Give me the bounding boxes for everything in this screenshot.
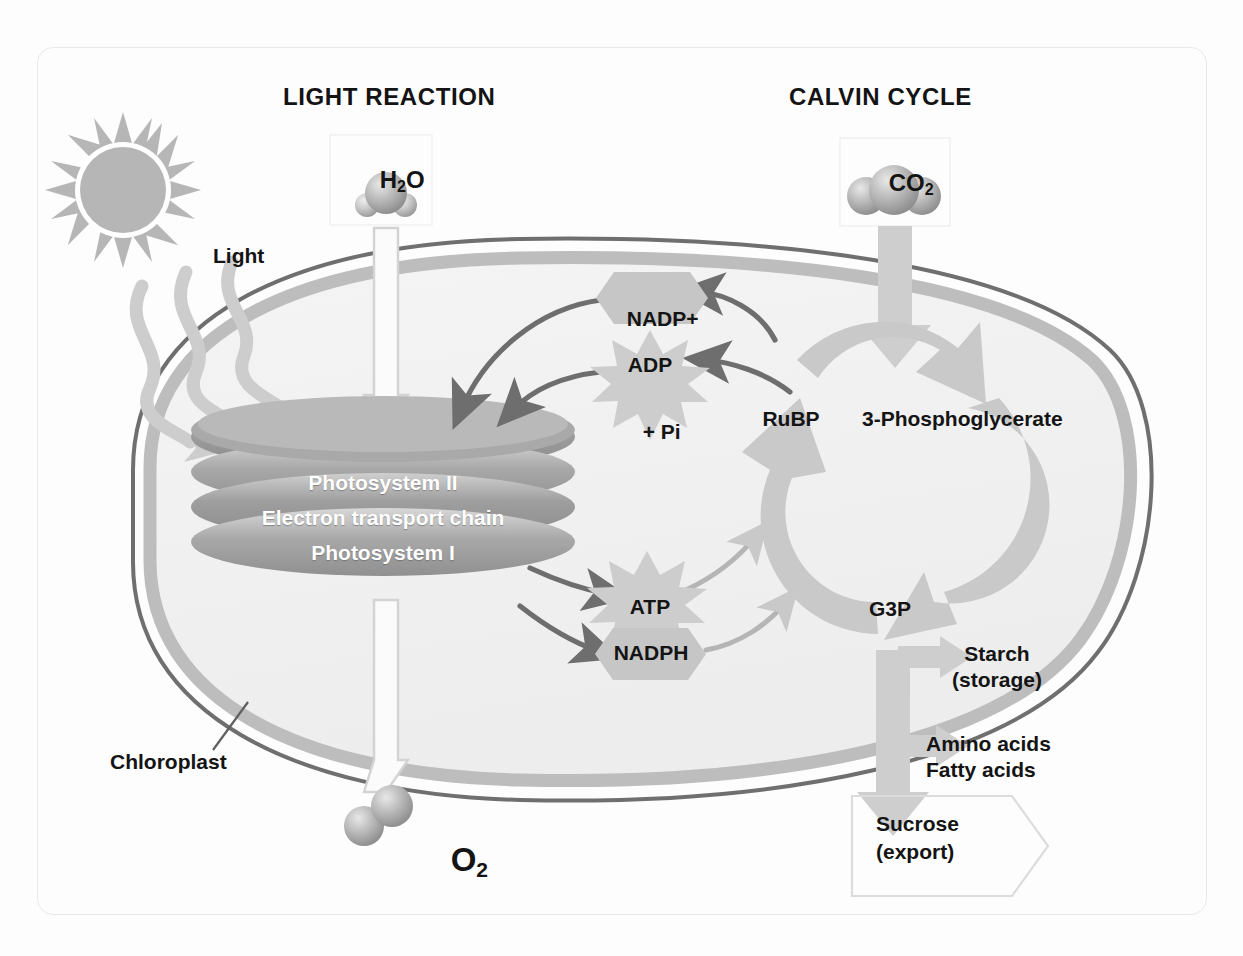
oxygen-molecule-label: O2 bbox=[414, 805, 488, 918]
sun-icon bbox=[45, 112, 201, 268]
sucrose-label-line2: (export) bbox=[876, 840, 954, 864]
water-h: H bbox=[380, 166, 397, 193]
starch-label-line1: Starch bbox=[919, 642, 1075, 666]
thylakoid-label-photosystem-2: Photosystem II bbox=[191, 471, 575, 495]
water-molecule-label: H2O bbox=[353, 140, 425, 223]
nadp-text: NADP bbox=[627, 307, 687, 330]
diagram-artwork bbox=[0, 0, 1243, 956]
co2-2: 2 bbox=[925, 181, 934, 198]
chloroplast-label: Chloroplast bbox=[110, 750, 227, 774]
nadp-plus-label: NADP+ bbox=[592, 283, 710, 354]
g3p-label: G3P bbox=[869, 597, 911, 621]
atp-label: ATP bbox=[598, 595, 702, 619]
water-2: 2 bbox=[397, 178, 406, 195]
fatty-acids-label: Fatty acids bbox=[926, 758, 1036, 782]
thylakoid-label-electron-transport-chain: Electron transport chain bbox=[191, 506, 575, 530]
oxygen-molecule bbox=[344, 785, 413, 846]
co2-co: CO bbox=[889, 169, 925, 196]
section-heading-light-reaction: LIGHT REACTION bbox=[283, 84, 495, 111]
nadp-plus-sign: + bbox=[686, 307, 698, 330]
inorganic-phosphate-label: + Pi bbox=[596, 396, 704, 467]
adp-label: ADP bbox=[598, 353, 702, 377]
pi-sub: i bbox=[675, 420, 681, 443]
diagram-canvas: LIGHT REACTION CALVIN CYCLE H2O CO2 Ligh… bbox=[0, 0, 1243, 956]
sucrose-label-line1: Sucrose bbox=[876, 812, 959, 836]
starch-label-line2: (storage) bbox=[919, 668, 1075, 692]
oxygen-2: 2 bbox=[476, 858, 488, 881]
rubp-label: RuBP bbox=[736, 407, 846, 431]
nadph-label: NADPH bbox=[592, 641, 710, 665]
section-heading-calvin-cycle: CALVIN CYCLE bbox=[789, 84, 972, 111]
light-label: Light bbox=[213, 244, 264, 268]
pi-prefix: + P bbox=[643, 420, 675, 443]
oxygen-o: O bbox=[451, 841, 477, 878]
co2-molecule-label: CO2 bbox=[862, 143, 934, 226]
thylakoid-label-photosystem-1: Photosystem I bbox=[191, 541, 575, 565]
amino-acids-label: Amino acids bbox=[926, 732, 1051, 756]
pga-label: 3-Phosphoglycerate bbox=[862, 407, 1063, 431]
water-o: O bbox=[406, 166, 425, 193]
